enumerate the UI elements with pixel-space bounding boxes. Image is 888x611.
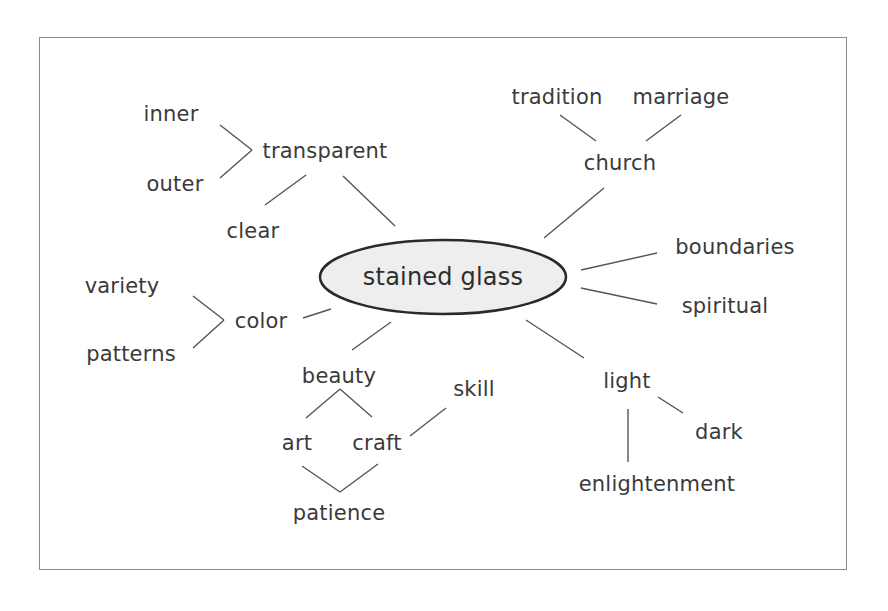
- node-craft: craft: [352, 431, 401, 455]
- link-center-transparent: [343, 176, 395, 226]
- link-center-beauty: [352, 322, 391, 350]
- node-boundaries: boundaries: [675, 235, 794, 259]
- node-patterns: patterns: [86, 342, 176, 366]
- link-beauty-art: [306, 389, 340, 418]
- link-transparent-inner: [220, 125, 252, 150]
- center-node-stained-glass: stained glass: [363, 263, 523, 291]
- node-enlightenment: enlightenment: [579, 472, 736, 496]
- link-beauty-craft: [340, 389, 372, 417]
- node-skill: skill: [453, 377, 495, 401]
- node-tradition: tradition: [512, 85, 603, 109]
- node-patience: patience: [293, 501, 386, 525]
- node-art: art: [282, 431, 312, 455]
- link-art-patience: [302, 466, 340, 492]
- link-center-church: [544, 188, 604, 238]
- link-color-patterns: [193, 320, 224, 348]
- link-light-dark: [658, 397, 683, 413]
- node-variety: variety: [85, 274, 160, 298]
- link-craft-skill: [410, 408, 446, 436]
- link-church-tradition: [560, 115, 596, 141]
- link-color-variety: [193, 296, 224, 320]
- node-marriage: marriage: [633, 85, 730, 109]
- node-transparent: transparent: [262, 139, 387, 163]
- link-craft-patience: [340, 464, 378, 492]
- node-clear: clear: [227, 219, 280, 243]
- node-church: church: [584, 151, 656, 175]
- link-center-color: [303, 309, 331, 318]
- node-color: color: [235, 309, 288, 333]
- link-church-marriage: [646, 115, 681, 141]
- node-dark: dark: [695, 420, 743, 444]
- node-inner: inner: [143, 102, 198, 126]
- link-center-boundaries: [581, 253, 657, 270]
- link-center-light: [526, 320, 584, 358]
- node-spiritual: spiritual: [682, 294, 769, 318]
- link-transparent-clear: [265, 175, 306, 205]
- node-outer: outer: [147, 172, 204, 196]
- link-transparent-outer: [220, 150, 252, 178]
- node-beauty: beauty: [302, 364, 376, 388]
- node-light: light: [603, 369, 651, 393]
- link-center-spiritual: [581, 288, 657, 304]
